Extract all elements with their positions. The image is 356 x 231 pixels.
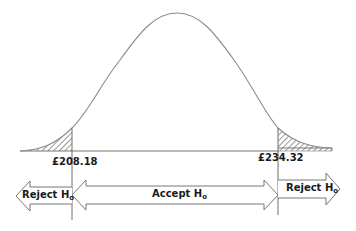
normal-distribution-curve — [20, 13, 332, 151]
upper-critical-value-label: £234.32 — [258, 152, 304, 163]
reject-right-label: Reject Ho — [286, 182, 338, 195]
accept-label: Accept Ho — [152, 188, 207, 201]
lower-critical-value-label: £208.18 — [52, 156, 98, 167]
hypothesis-test-diagram: £208.18 £234.32 Reject Ho Accept Ho Reje… — [0, 0, 356, 231]
reject-left-label: Reject Ho — [22, 189, 74, 202]
left-tail-rejection-region — [20, 128, 72, 151]
